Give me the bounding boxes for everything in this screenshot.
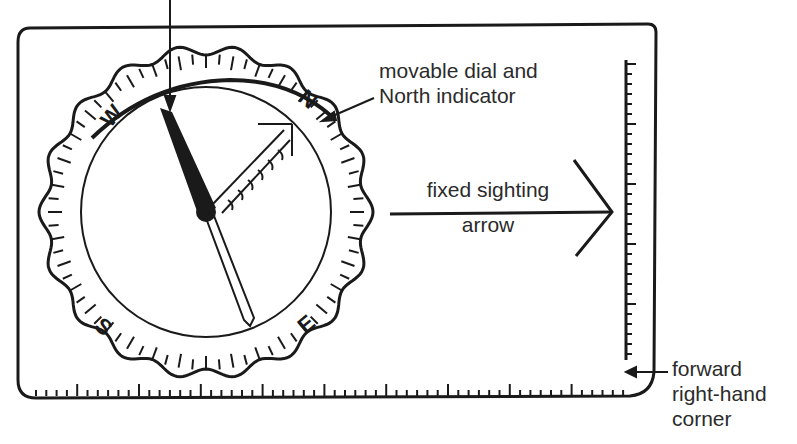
sighting-label: fixed sighting arrow xyxy=(413,177,563,237)
right-ruler xyxy=(626,60,636,360)
dial-label: movable dial and North indicator xyxy=(379,58,538,108)
sighting-label-line1: fixed sighting xyxy=(413,177,563,202)
corner-label: forward right-hand corner xyxy=(672,356,767,431)
orienting-arrow xyxy=(212,124,292,213)
sighting-label-line2: arrow xyxy=(413,212,563,237)
west-letter: W xyxy=(95,100,128,132)
compass-needle xyxy=(160,108,254,326)
corner-label-line2: right-hand xyxy=(672,381,767,406)
corner-leader-arrow xyxy=(626,367,668,377)
east-letter: E xyxy=(293,310,320,339)
dial-label-line2: North indicator xyxy=(379,83,538,108)
north-letter: N xyxy=(294,84,322,113)
south-letter: S xyxy=(90,312,117,341)
bottom-ruler xyxy=(36,384,623,396)
dial-label-line1: movable dial and xyxy=(379,58,538,83)
corner-label-line3: corner xyxy=(672,406,767,431)
corner-label-line1: forward xyxy=(672,356,767,381)
